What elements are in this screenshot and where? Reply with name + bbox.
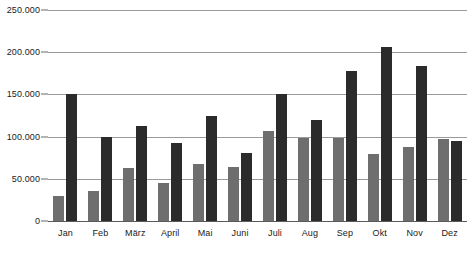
- bar: [66, 94, 77, 221]
- x-tick-label: Aug: [292, 224, 327, 244]
- y-tick-mark: [41, 221, 48, 222]
- x-tick-label: April: [153, 224, 188, 244]
- x-tick-label: Jan: [48, 224, 83, 244]
- y-tick-mark: [41, 178, 48, 179]
- x-tick-label: März: [118, 224, 153, 244]
- bar: [368, 154, 379, 221]
- bar-group: [292, 10, 327, 221]
- bar: [381, 47, 392, 221]
- x-tick-label: Juli: [258, 224, 293, 244]
- x-tick-label: Sep: [327, 224, 362, 244]
- bar: [438, 139, 449, 221]
- bar: [298, 138, 309, 221]
- x-tick-label: Dez: [432, 224, 467, 244]
- x-tick-label: Okt: [362, 224, 397, 244]
- bar-chart: 050.000100.000150.000200.000250.000 JanF…: [0, 0, 471, 256]
- bar: [136, 126, 147, 221]
- bar-group: [397, 10, 432, 221]
- x-tick-label: Nov: [397, 224, 432, 244]
- bar: [403, 147, 414, 221]
- bar-groups: [48, 10, 467, 221]
- gridline: [48, 221, 467, 222]
- bar: [263, 131, 274, 221]
- bar: [241, 153, 252, 221]
- bar: [88, 191, 99, 221]
- bar-group: [327, 10, 362, 221]
- y-axis-ticks: [0, 10, 48, 221]
- bar-group: [258, 10, 293, 221]
- x-tick-label: Mai: [188, 224, 223, 244]
- x-axis: JanFebMärzAprilMaiJuniJuliAugSepOktNovDe…: [48, 224, 467, 244]
- y-tick-mark: [41, 10, 48, 11]
- x-tick-label: Juni: [223, 224, 258, 244]
- bar: [333, 138, 344, 221]
- bar: [123, 168, 134, 221]
- bar: [101, 137, 112, 221]
- bar-group: [432, 10, 467, 221]
- bar: [206, 116, 217, 221]
- bar: [451, 141, 462, 221]
- bar: [311, 120, 322, 221]
- bar: [228, 167, 239, 221]
- bar: [346, 71, 357, 221]
- bar: [53, 196, 64, 221]
- y-tick-mark: [41, 52, 48, 53]
- bar-group: [118, 10, 153, 221]
- bar-group: [188, 10, 223, 221]
- y-tick-mark: [41, 136, 48, 137]
- bar-group: [223, 10, 258, 221]
- bar-group: [48, 10, 83, 221]
- bar: [171, 143, 182, 221]
- bar-group: [153, 10, 188, 221]
- bar: [416, 66, 427, 221]
- bar-group: [362, 10, 397, 221]
- bar-group: [83, 10, 118, 221]
- bar: [193, 164, 204, 221]
- bar: [158, 183, 169, 221]
- bar: [276, 94, 287, 221]
- x-tick-label: Feb: [83, 224, 118, 244]
- y-tick-mark: [41, 94, 48, 95]
